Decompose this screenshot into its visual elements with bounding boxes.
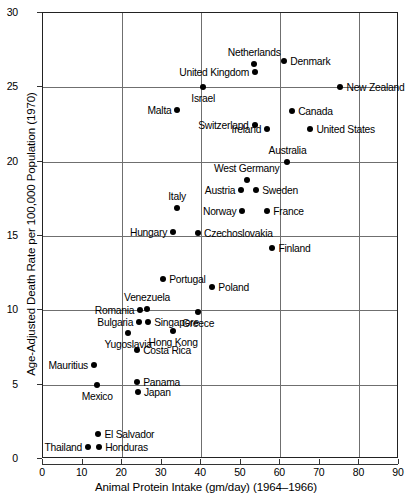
plot-area: NetherlandsUnited KingdomDenmarkNew Zeal… <box>42 12 398 458</box>
y-tick-label: 30 <box>0 6 18 18</box>
data-point <box>195 230 201 236</box>
data-point <box>85 444 91 450</box>
data-point-label: Norway <box>203 205 236 216</box>
data-point-label: United States <box>316 123 375 134</box>
data-point <box>195 309 201 315</box>
data-point-label: Netherlands <box>228 47 281 58</box>
data-point-label: Poland <box>218 281 249 292</box>
data-point-label: Venezuela <box>124 292 170 303</box>
data-point <box>135 389 141 395</box>
data-point-label: El Salvador <box>104 428 154 439</box>
data-point <box>281 58 287 64</box>
gridline-vertical <box>201 13 202 457</box>
x-tick-label: 70 <box>304 466 334 478</box>
data-point <box>91 362 97 368</box>
data-point-label: New Zealand <box>346 82 404 93</box>
data-point <box>174 107 180 113</box>
data-point <box>284 159 290 165</box>
data-point <box>134 347 140 353</box>
data-point <box>252 69 258 75</box>
gridline-vertical <box>280 13 281 457</box>
data-point <box>251 61 257 67</box>
data-point-label: Israel <box>191 93 215 104</box>
y-tick-label: 5 <box>0 378 18 390</box>
gridline-vertical <box>122 13 123 457</box>
x-tick-label: 30 <box>146 466 176 478</box>
data-point <box>137 307 143 313</box>
data-point <box>238 187 244 193</box>
data-point-label: United Kingdom <box>179 67 249 78</box>
x-axis-title: Animal Protein Intake (gm/day) (1964–196… <box>0 481 412 493</box>
y-tick-label: 15 <box>0 229 18 241</box>
data-point <box>136 319 142 325</box>
gridline-vertical <box>359 13 360 457</box>
data-point-label: Mexico <box>82 391 113 402</box>
data-point-label: Bulgaria <box>97 317 133 328</box>
data-point <box>170 328 176 334</box>
y-axis-title: Age-Adjusted Death Rate per 100,000 Popu… <box>25 11 37 457</box>
data-point <box>174 205 180 211</box>
y-tick-mark <box>37 384 42 385</box>
data-point-label: Hungary <box>130 226 167 237</box>
gridline-horizontal <box>43 87 397 88</box>
data-point-label: France <box>273 205 304 216</box>
data-point <box>239 208 245 214</box>
data-point <box>209 284 215 290</box>
data-point-label: Portugal <box>169 274 205 285</box>
data-point <box>144 306 150 312</box>
y-tick-mark <box>37 309 42 310</box>
data-point-label: Ireland <box>232 123 262 134</box>
data-point-label: Sweden <box>262 184 298 195</box>
data-point-label: Singapore <box>154 317 199 328</box>
scatter-plot-chart: NetherlandsUnited KingdomDenmarkNew Zeal… <box>0 0 412 501</box>
data-point-label: Japan <box>144 387 171 398</box>
data-point-label: Finland <box>278 242 310 253</box>
y-tick-mark <box>37 12 42 13</box>
data-point <box>253 187 259 193</box>
data-point <box>200 84 206 90</box>
data-point-label: Italy <box>168 191 186 202</box>
y-tick-label: 10 <box>0 303 18 315</box>
x-tick-label: 40 <box>185 466 215 478</box>
data-point <box>337 84 343 90</box>
x-tick-label: 60 <box>264 466 294 478</box>
data-point-label: Malta <box>148 104 172 115</box>
x-tick-label: 0 <box>27 466 57 478</box>
data-point <box>264 208 270 214</box>
y-tick-mark <box>37 458 42 459</box>
data-point <box>307 126 313 132</box>
data-point-label: Costa Rica <box>143 345 191 356</box>
y-tick-label: 0 <box>0 452 18 464</box>
x-tick-label: 50 <box>225 466 255 478</box>
x-tick-label: 20 <box>106 466 136 478</box>
y-tick-mark <box>37 235 42 236</box>
data-point <box>170 229 176 235</box>
data-point <box>145 319 151 325</box>
data-point <box>134 379 140 385</box>
x-tick-mark <box>398 459 399 464</box>
data-point-label: Australia <box>269 145 307 156</box>
data-point <box>95 431 101 437</box>
y-tick-mark <box>37 86 42 87</box>
data-point <box>264 126 270 132</box>
data-point-label: Thailand <box>45 442 83 453</box>
data-point-label: Mauritius <box>48 360 88 371</box>
data-point-label: Denmark <box>290 55 330 66</box>
y-tick-mark <box>37 161 42 162</box>
data-point <box>125 330 131 336</box>
data-point-label: Honduras <box>105 442 148 453</box>
data-point-label: Romania <box>95 305 134 316</box>
data-point-label: West Germany <box>214 163 279 174</box>
data-point <box>289 108 295 114</box>
y-tick-label: 25 <box>0 80 18 92</box>
data-point-label: Panama <box>143 376 180 387</box>
data-point <box>160 276 166 282</box>
y-tick-label: 20 <box>0 155 18 167</box>
x-axis-line <box>42 464 398 465</box>
data-point <box>94 382 100 388</box>
data-point <box>244 177 250 183</box>
x-tick-label: 80 <box>343 466 373 478</box>
data-point <box>96 444 102 450</box>
data-point-label: Czechoslovakia <box>204 228 273 239</box>
data-point-label: Canada <box>298 106 333 117</box>
